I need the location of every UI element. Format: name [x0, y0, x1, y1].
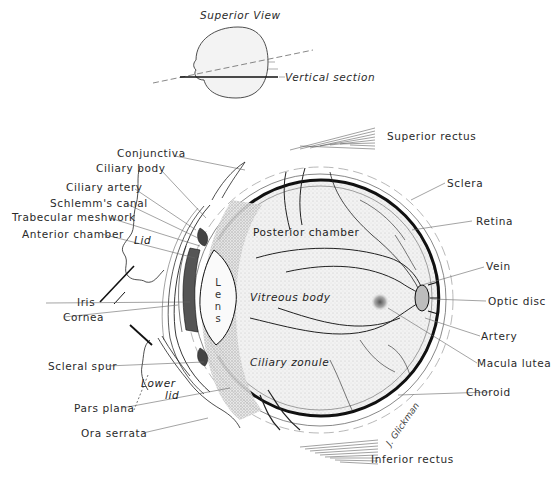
label-anterior-chamber: Anterior chamber — [22, 228, 124, 240]
superior-rectus-muscle — [290, 128, 375, 150]
label-choroid: Choroid — [466, 386, 511, 398]
label-superior-rectus: Superior rectus — [387, 130, 476, 142]
label-optic-disc: Optic disc — [488, 295, 546, 307]
label-lower-lid-2: lid — [165, 389, 179, 401]
label-schlemms-canal: Schlemm's canal — [50, 197, 148, 209]
label-pars-plana: Pars plana — [74, 402, 135, 414]
inferior-rectus-muscle — [300, 440, 378, 464]
label-macula-lutea: Macula lutea — [477, 357, 551, 369]
optic-disc-shape — [415, 285, 429, 311]
label-lens: L e n s — [213, 277, 223, 325]
label-artery: Artery — [481, 330, 517, 342]
label-ciliary-artery: Ciliary artery — [66, 181, 143, 193]
label-inferior-rectus: Inferior rectus — [371, 453, 454, 465]
label-cornea: Cornea — [63, 311, 104, 323]
label-trabecular-meshwork: Trabecular meshwork — [12, 211, 136, 223]
macula-shape — [371, 293, 389, 311]
vertical-section-label: Vertical section — [285, 71, 375, 83]
label-retina: Retina — [476, 215, 513, 227]
label-lower-lid-1: Lower — [141, 377, 176, 389]
label-iris: Iris — [77, 296, 95, 308]
label-sclera: Sclera — [447, 177, 483, 189]
upper-eyelash — [100, 266, 134, 302]
label-lid: Lid — [134, 234, 151, 246]
label-ora-serrata: Ora serrata — [81, 427, 147, 439]
label-conjunctiva: Conjunctiva — [117, 147, 186, 159]
inset-title: Superior View — [200, 9, 281, 21]
lower-eyelash — [130, 325, 152, 345]
label-scleral-spur: Scleral spur — [48, 360, 117, 372]
label-ciliary-zonule: Ciliary zonule — [250, 356, 329, 368]
label-posterior-chamber: Posterior chamber — [253, 226, 359, 238]
label-vitreous-body: Vitreous body — [250, 291, 331, 303]
superior-view-inset — [153, 27, 313, 98]
label-ciliary-body: Ciliary body — [96, 162, 166, 174]
label-vein: Vein — [486, 260, 511, 272]
